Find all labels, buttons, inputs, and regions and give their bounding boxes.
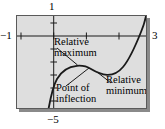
annotation-relative-maximum-line1: Relative bbox=[54, 36, 97, 47]
annotation-relative-minimum-line1: Relative bbox=[106, 74, 147, 85]
annotation-relative-minimum: Relative minimum bbox=[106, 74, 147, 96]
annotation-point-of-inflection-line1: Point of bbox=[56, 82, 96, 93]
annotation-relative-maximum-line2: maximum bbox=[54, 47, 97, 58]
annotation-point-of-inflection-line2: inflection bbox=[56, 93, 96, 104]
annotation-relative-maximum: Relative maximum bbox=[54, 36, 97, 58]
y-axis-top-label: 1 bbox=[49, 1, 55, 12]
x-axis-left-label: −1 bbox=[0, 30, 12, 41]
y-axis-bottom-label: −5 bbox=[47, 114, 59, 125]
plot-frame: Relative maximum Point of inflection Rel… bbox=[16, 15, 147, 109]
figure-cubic-graph: Relative maximum Point of inflection Rel… bbox=[0, 0, 165, 129]
x-axis-right-label: 3 bbox=[152, 30, 158, 41]
annotation-point-of-inflection: Point of inflection bbox=[56, 82, 96, 104]
annotation-relative-minimum-line2: minimum bbox=[106, 85, 147, 96]
